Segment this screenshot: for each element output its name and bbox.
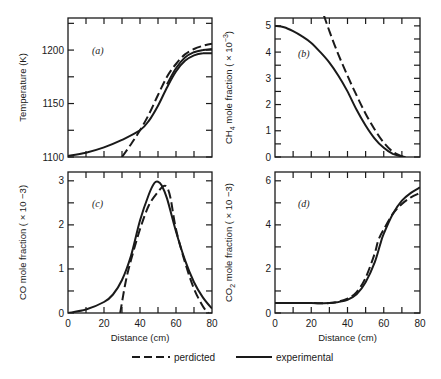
x-tick-label: 0 xyxy=(65,318,71,329)
x-tick-label: 20 xyxy=(306,318,318,329)
y-tick-label: 2 xyxy=(265,99,271,110)
legend-experimental-label: experimental xyxy=(276,352,333,363)
panel-d: 0246020406080Distance (cm)CO2 mole fract… xyxy=(223,172,426,343)
y-tick-label: 0 xyxy=(265,308,271,319)
y-tick-label: 3 xyxy=(265,73,271,84)
y-tick-label: 2 xyxy=(58,219,64,230)
x-tick-label: 40 xyxy=(134,318,146,329)
figure-canvas: 110011501200Temperature (K)(a)012345CH4 … xyxy=(0,0,441,379)
panel-b: 012345CH4 mole fraction ( × 10−3)(b) xyxy=(222,15,420,162)
panel-a: 110011501200Temperature (K)(a) xyxy=(17,18,212,163)
y-tick-label: 4 xyxy=(265,47,271,58)
y-tick-label: 4 xyxy=(265,219,271,230)
x-tick-label: 80 xyxy=(414,318,426,329)
x-tick-label: 0 xyxy=(272,318,278,329)
x-tick-label: 20 xyxy=(98,318,110,329)
plot-frame xyxy=(275,172,420,313)
series-perdicted xyxy=(122,44,212,157)
series-experimental xyxy=(68,53,212,156)
y-axis-label: Temperature (K) xyxy=(17,53,28,122)
y-tick-label: 3 xyxy=(58,175,64,186)
y-axis-label: CO mole fraction ( × 10 −3) xyxy=(17,185,28,300)
panel-c: 0123020406080Distance (cm)CO mole fracti… xyxy=(17,172,218,343)
series-experimental xyxy=(275,26,406,157)
series-perdicted xyxy=(275,193,420,303)
y-tick-label: 0 xyxy=(265,152,271,163)
x-tick-label: 60 xyxy=(170,318,182,329)
x-tick-label: 60 xyxy=(378,318,390,329)
y-tick-label: 1 xyxy=(58,263,64,274)
series-experimental xyxy=(275,187,420,303)
plot-frame xyxy=(68,172,212,313)
series-perdicted xyxy=(120,186,208,313)
y-tick-label: 1150 xyxy=(42,98,64,109)
y-tick-label: 2 xyxy=(265,263,271,274)
panel-tag: (d) xyxy=(298,198,310,210)
plot-frame xyxy=(275,18,420,157)
x-axis-label: Distance (cm) xyxy=(318,332,377,343)
panel-tag: (c) xyxy=(92,198,104,210)
x-tick-label: 40 xyxy=(342,318,354,329)
panel-tag: (b) xyxy=(298,48,310,60)
y-axis-label: CO2 mole fraction ( × 10 −3) xyxy=(223,183,236,302)
y-tick-label: 1200 xyxy=(42,45,65,56)
legend-predicted-label: perdicted xyxy=(174,352,215,363)
panel-tag: (a) xyxy=(92,45,104,57)
x-axis-label: Distance (cm) xyxy=(111,332,170,343)
legend: perdicted experimental xyxy=(132,352,333,363)
x-tick-label: 80 xyxy=(206,318,218,329)
series-perdicted xyxy=(324,15,406,157)
y-tick-label: 6 xyxy=(265,175,271,186)
plot-frame xyxy=(68,18,212,157)
y-tick-label: 1 xyxy=(265,125,271,136)
y-tick-label: 5 xyxy=(265,20,271,31)
y-tick-label: 1100 xyxy=(42,152,64,163)
series-experimental xyxy=(68,181,212,313)
y-axis-label: CH4 mole fraction ( × 10−3) xyxy=(222,31,236,144)
y-tick-label: 0 xyxy=(58,308,64,319)
